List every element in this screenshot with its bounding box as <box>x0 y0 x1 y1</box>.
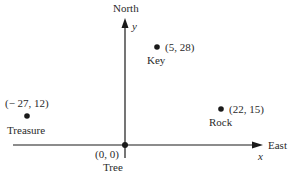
point-treasure <box>24 113 30 119</box>
treasure-label: Treasure <box>7 124 45 136</box>
point-rock <box>218 106 224 112</box>
rock-coords: (22, 15) <box>229 103 264 115</box>
x-axis-arrow-icon <box>252 142 263 149</box>
point-key <box>154 44 160 50</box>
coordinate-diagram <box>0 0 294 174</box>
east-label: East <box>268 139 287 151</box>
rock-label: Rock <box>209 116 232 128</box>
y-axis-arrow-icon <box>122 18 129 28</box>
point-tree <box>122 142 128 148</box>
north-label: North <box>113 2 139 14</box>
tree-label: Tree <box>103 161 123 173</box>
key-label: Key <box>147 54 165 66</box>
tree-coords: (0, 0) <box>95 148 119 160</box>
x-axis-label: x <box>258 150 263 162</box>
treasure-coords: (− 27, 12) <box>5 97 49 109</box>
key-coords: (5, 28) <box>165 41 194 53</box>
y-axis-label: y <box>132 20 137 32</box>
